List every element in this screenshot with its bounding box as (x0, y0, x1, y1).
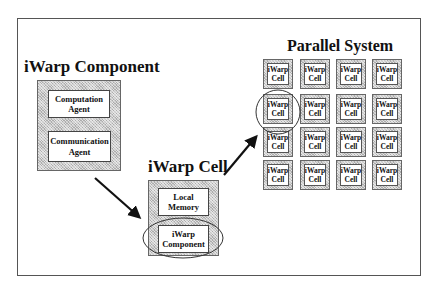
cell-title: iWarp Cell (148, 158, 228, 175)
grid-cell-line2: Cell (381, 109, 394, 118)
grid-cell: iWarpCell (263, 59, 293, 89)
grid-cell: iWarpCell (372, 94, 402, 124)
grid-cell-line2: Cell (381, 74, 394, 83)
local-memory-line1: Local (173, 192, 193, 202)
grid-cell-line2: Cell (381, 175, 394, 184)
grid-cell: iWarpCell (372, 127, 402, 157)
cell-box: Local Memory iWarp Component (148, 180, 219, 256)
grid-cell-highlighted: iWarpCell (263, 94, 293, 124)
grid-cell: iWarpCell (263, 127, 293, 157)
grid-cell-line2: Cell (345, 74, 358, 83)
communication-agent-box: Communication Agent (48, 131, 111, 162)
grid-cell: iWarpCell (263, 160, 293, 190)
grid-cell-line1: iWarp (305, 166, 325, 175)
grid-cell-line1: iWarp (268, 100, 288, 109)
cell-component-line1: iWarp (172, 229, 195, 239)
grid-cell: iWarpCell (300, 94, 330, 124)
grid-cell-line2: Cell (309, 142, 322, 151)
grid-cell-line1: iWarp (377, 65, 397, 74)
grid-cell-line2: Cell (272, 142, 285, 151)
grid-cell: iWarpCell (300, 160, 330, 190)
local-memory-box: Local Memory (158, 188, 209, 216)
grid-cell-line1: iWarp (341, 133, 361, 142)
grid-cell-line1: iWarp (305, 133, 325, 142)
component-title: iWarp Component (24, 58, 160, 75)
grid-cell-line1: iWarp (377, 100, 397, 109)
computation-agent-line2: Agent (68, 104, 90, 114)
grid-cell: iWarpCell (336, 94, 366, 124)
communication-agent-line1: Communication (50, 136, 109, 146)
grid-cell-line2: Cell (272, 109, 285, 118)
grid-cell-line1: iWarp (341, 65, 361, 74)
grid-cell: iWarpCell (300, 59, 330, 89)
component-box: Computation Agent Communication Agent (37, 80, 121, 171)
local-memory-line2: Memory (168, 202, 199, 212)
communication-agent-line2: Agent (69, 147, 91, 157)
grid-cell-line2: Cell (381, 142, 394, 151)
grid-cell-line2: Cell (309, 175, 322, 184)
grid-cell-line1: iWarp (377, 133, 397, 142)
cell-component-box: iWarp Component (158, 225, 209, 253)
grid-cell: iWarpCell (336, 160, 366, 190)
grid-cell: iWarpCell (372, 160, 402, 190)
grid-cell-line2: Cell (309, 109, 322, 118)
grid-cell: iWarpCell (372, 59, 402, 89)
grid-cell-line2: Cell (309, 74, 322, 83)
grid-cell-line1: iWarp (268, 166, 288, 175)
grid-cell-line2: Cell (272, 175, 285, 184)
computation-agent-line1: Computation (55, 94, 103, 104)
grid-cell-line1: iWarp (341, 166, 361, 175)
grid-cell-line1: iWarp (377, 166, 397, 175)
grid-cell-line1: iWarp (305, 100, 325, 109)
computation-agent-box: Computation Agent (48, 90, 110, 118)
grid-cell: iWarpCell (336, 127, 366, 157)
grid-cell-line1: iWarp (268, 65, 288, 74)
system-title: Parallel System (287, 38, 393, 54)
grid-cell-line1: iWarp (341, 100, 361, 109)
grid-cell-line2: Cell (272, 74, 285, 83)
grid-cell-line1: iWarp (305, 65, 325, 74)
grid-cell: iWarpCell (336, 59, 366, 89)
cell-component-line2: Component (162, 239, 205, 249)
grid-cell-line1: iWarp (268, 133, 288, 142)
grid-cell: iWarpCell (300, 127, 330, 157)
grid-cell-line2: Cell (345, 142, 358, 151)
grid-cell-line2: Cell (345, 109, 358, 118)
grid-cell-line2: Cell (345, 175, 358, 184)
